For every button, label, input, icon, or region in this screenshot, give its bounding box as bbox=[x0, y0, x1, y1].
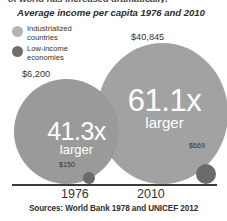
bubble-multiplier-2010: 61.1x bbox=[128, 86, 201, 116]
legend-item-industrialized: Industrialized countries bbox=[12, 25, 83, 42]
bubble-inner: 61.1x larger bbox=[128, 86, 201, 130]
axis-label-2010: 2010 bbox=[137, 187, 165, 201]
headline-fragment: of world has increased dramatically. bbox=[8, 0, 223, 3]
bubble-lowincome-2010 bbox=[196, 164, 216, 184]
light-gray-circle-icon bbox=[12, 26, 23, 37]
axis-baseline bbox=[12, 184, 217, 186]
income-per-capita-infographic: of world has increased dramatically. Ave… bbox=[0, 0, 227, 221]
bubble-inner: 41.3x larger bbox=[47, 119, 106, 157]
bubble-multiplier-1976: 41.3x bbox=[47, 119, 106, 143]
value-label-lowincome-1976: $150 bbox=[59, 160, 75, 169]
bubble-industrialized-2010: 61.1x larger bbox=[97, 43, 227, 184]
legend-item-lowincome: Low-income economies bbox=[12, 45, 83, 62]
chart-subtitle: Average income per capita 1976 and 2010 bbox=[17, 7, 205, 18]
value-label-industrialized-2010: $40,845 bbox=[131, 32, 164, 42]
axis-label-1976: 1976 bbox=[61, 187, 89, 201]
bubble-caption-1976: larger bbox=[47, 143, 106, 157]
source-note: Sources: World Bank 1978 and UNICEF 2012 bbox=[0, 204, 227, 213]
bubble-caption-2010: larger bbox=[128, 116, 201, 130]
legend-item-label: Low-income economies bbox=[27, 45, 83, 62]
value-label-industrialized-1976: $6,200 bbox=[22, 69, 50, 79]
value-label-lowincome-2010: $669 bbox=[189, 141, 205, 150]
bubble-lowincome-1976 bbox=[83, 172, 95, 184]
legend-item-label: Industrialized countries bbox=[27, 25, 83, 42]
legend: Industrialized countries Low-income econ… bbox=[12, 25, 83, 65]
dark-gray-circle-icon bbox=[12, 46, 23, 57]
